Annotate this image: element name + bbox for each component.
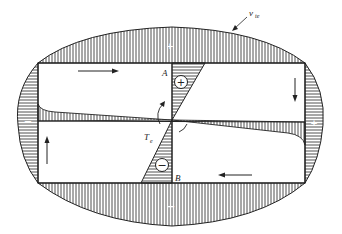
lower-triangle bbox=[141, 120, 172, 183]
lower-circle-sign: − bbox=[156, 159, 169, 173]
top-lobe-sign: + bbox=[166, 41, 174, 51]
arrow-left-icon bbox=[218, 173, 252, 178]
right-lobe-sign: + bbox=[310, 118, 318, 128]
point-a-label: A bbox=[161, 68, 168, 78]
shear-flow-diagram: + − + − − + v te A B T e bbox=[0, 0, 342, 234]
torque-subscript: e bbox=[150, 138, 153, 144]
right-web-wedge bbox=[172, 120, 305, 145]
upper-triangle bbox=[172, 63, 205, 120]
left-lobe-sign: − bbox=[24, 116, 32, 127]
svg-text:−: − bbox=[157, 159, 166, 172]
left-web-wedge bbox=[38, 104, 172, 121]
point-b-label: B bbox=[175, 173, 181, 183]
velocity-pointer bbox=[232, 17, 247, 31]
arrow-right-icon bbox=[78, 69, 119, 74]
svg-text:+: + bbox=[177, 77, 185, 88]
arrow-down-icon bbox=[293, 78, 298, 102]
upper-circle-sign: + bbox=[175, 76, 188, 89]
arrow-up-icon bbox=[45, 136, 50, 164]
velocity-subscript: te bbox=[255, 13, 260, 19]
velocity-label: v bbox=[249, 8, 253, 18]
bottom-lobe-sign: − bbox=[167, 201, 175, 212]
